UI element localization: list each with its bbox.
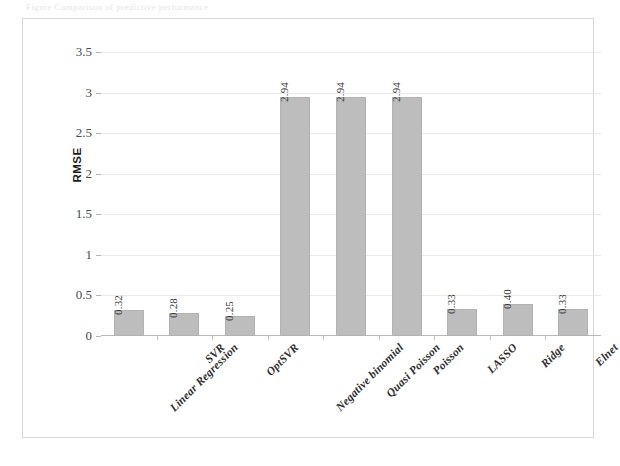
bar[interactable]: [392, 97, 422, 336]
y-axis-tick-label: 1.5: [76, 206, 92, 222]
bar-value-label: 2.94: [390, 82, 402, 102]
x-axis-tick: [157, 336, 158, 340]
x-axis-tick: [323, 336, 324, 340]
bar[interactable]: [280, 97, 310, 336]
plot-area: 00.511.522.533.50.320.280.252.942.942.94…: [101, 52, 601, 336]
x-axis-tick-label: LASSO: [485, 341, 520, 376]
x-axis-tick: [434, 336, 435, 340]
x-axis-tick-label: Linear Regression: [167, 341, 240, 414]
x-axis-tick-label: OptSVR: [264, 341, 301, 378]
bar-value-label: 0.28: [167, 298, 179, 318]
x-axis-tick: [212, 336, 213, 340]
y-axis-tick-label: 0.5: [76, 287, 92, 303]
y-axis-tick: [96, 93, 101, 94]
bar-value-label: 0.32: [112, 295, 124, 315]
x-axis-tick-label: Ridge: [538, 341, 567, 370]
gridline: [101, 52, 601, 53]
gridline: [101, 93, 601, 94]
caption-remnant: Figure Comparison of predictive performa…: [0, 0, 618, 14]
y-axis-tick: [96, 295, 101, 296]
y-axis-tick: [96, 52, 101, 53]
y-axis-tick: [96, 174, 101, 175]
x-axis-labels: Linear RegressionSVROptSVRNegative binom…: [101, 341, 601, 451]
x-axis-tick: [379, 336, 380, 340]
bar[interactable]: [336, 97, 366, 336]
y-axis-tick-label: 0: [86, 328, 93, 344]
x-axis-tick-label: Negative binomial: [334, 341, 406, 413]
y-axis-tick-label: 1: [86, 247, 93, 263]
x-axis-tick: [490, 336, 491, 340]
y-axis-tick-label: 2.5: [76, 125, 92, 141]
y-axis-tick-label: 3.5: [76, 44, 92, 60]
y-axis-tick: [96, 133, 101, 134]
y-axis-tick-label: 2: [86, 166, 93, 182]
y-axis-tick: [96, 336, 101, 337]
bar-value-label: 2.94: [278, 82, 290, 102]
y-axis-tick-label: 3: [86, 85, 93, 101]
x-axis-tick: [545, 336, 546, 340]
y-axis-tick: [96, 214, 101, 215]
x-axis-tick: [268, 336, 269, 340]
x-axis-tick-label: Elnet: [593, 341, 620, 368]
bar-value-label: 0.40: [501, 288, 513, 308]
bar-value-label: 0.33: [556, 294, 568, 314]
bar-value-label: 0.33: [445, 294, 457, 314]
bar-value-label: 0.25: [223, 301, 235, 321]
chart-frame: RMSE 00.511.522.533.50.320.280.252.942.9…: [22, 18, 594, 438]
y-axis-title: RMSE: [71, 147, 83, 182]
bar-value-label: 2.94: [334, 82, 346, 102]
y-axis-tick: [96, 255, 101, 256]
